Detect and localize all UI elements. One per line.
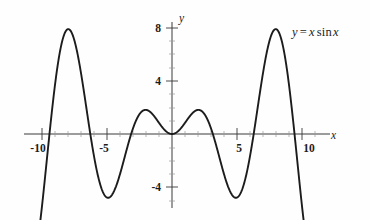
xtick-label--10: -10 bbox=[30, 142, 46, 154]
equation-sin-function: sin bbox=[315, 25, 333, 39]
xtick-label-10: 10 bbox=[303, 142, 315, 154]
x-axis-minor-ticks bbox=[55, 131, 315, 137]
equation-annotation: y=xsinx bbox=[292, 25, 339, 40]
equation-y-symbol: y bbox=[292, 25, 298, 39]
figure-xsinx-plot: -10 -5 5 10 8 4 -4 y x y=xsinx bbox=[0, 0, 370, 220]
ytick-label-8: 8 bbox=[155, 22, 161, 34]
xtick-label--5: -5 bbox=[99, 142, 109, 154]
equation-equals-sign: = bbox=[298, 25, 309, 39]
ytick-label--4: -4 bbox=[151, 181, 161, 193]
equation-x-symbol-2: x bbox=[333, 25, 339, 39]
x-axis-label: x bbox=[330, 129, 337, 141]
equation-x-symbol: x bbox=[309, 25, 315, 39]
xtick-label-5: 5 bbox=[236, 142, 242, 154]
ytick-label-4: 4 bbox=[155, 75, 161, 87]
y-axis-label: y bbox=[178, 12, 185, 25]
